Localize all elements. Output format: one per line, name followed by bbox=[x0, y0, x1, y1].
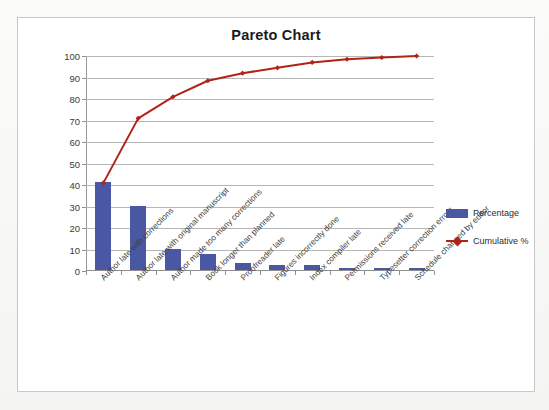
bar-0 bbox=[95, 182, 111, 270]
y-tick-mark-100 bbox=[82, 56, 86, 57]
cumulative-marker-3 bbox=[205, 78, 210, 83]
x-tick-mark-5 bbox=[260, 271, 261, 275]
y-tick-label-80: 80 bbox=[69, 94, 80, 105]
chart-legend: PercentageCumulative % bbox=[446, 203, 538, 259]
y-tick-mark-90 bbox=[82, 78, 86, 79]
x-tick-mark-10 bbox=[434, 271, 435, 275]
y-tick-label-70: 70 bbox=[69, 115, 80, 126]
cumulative-marker-4 bbox=[240, 71, 245, 76]
legend-bar-swatch-icon bbox=[446, 209, 468, 218]
legend-label-0: Percentage bbox=[473, 208, 519, 218]
gridline-50 bbox=[86, 164, 434, 165]
y-tick-label-40: 40 bbox=[69, 180, 80, 191]
x-tick-mark-0 bbox=[86, 271, 87, 275]
y-tick-mark-50 bbox=[82, 164, 86, 165]
y-tick-label-100: 100 bbox=[64, 51, 80, 62]
y-tick-label-20: 20 bbox=[69, 223, 80, 234]
y-tick-mark-20 bbox=[82, 228, 86, 229]
legend-label-1: Cumulative % bbox=[473, 236, 529, 246]
x-tick-mark-6 bbox=[295, 271, 296, 275]
cumulative-marker-5 bbox=[275, 65, 280, 70]
gridline-40 bbox=[86, 185, 434, 186]
plot-wrapper: 0102030405060708090100 Author late with … bbox=[18, 18, 534, 391]
y-tick-label-90: 90 bbox=[69, 72, 80, 83]
x-tick-mark-3 bbox=[190, 271, 191, 275]
chart-frame[interactable]: Pareto Chart 0102030405060708090100 Auth… bbox=[17, 17, 535, 392]
gridline-90 bbox=[86, 78, 434, 79]
x-tick-mark-4 bbox=[225, 271, 226, 275]
legend-item-1[interactable]: Cumulative % bbox=[446, 231, 538, 251]
y-tick-label-30: 30 bbox=[69, 201, 80, 212]
cumulative-marker-7 bbox=[344, 57, 349, 62]
legend-item-0[interactable]: Percentage bbox=[446, 203, 538, 223]
y-tick-mark-40 bbox=[82, 185, 86, 186]
x-tick-mark-7 bbox=[330, 271, 331, 275]
gridline-100 bbox=[86, 56, 434, 57]
x-tick-mark-1 bbox=[121, 271, 122, 275]
x-tick-mark-8 bbox=[364, 271, 365, 275]
y-tick-label-0: 0 bbox=[75, 266, 80, 277]
legend-line-marker-icon bbox=[446, 235, 468, 247]
y-tick-mark-80 bbox=[82, 99, 86, 100]
y-tick-label-50: 50 bbox=[69, 158, 80, 169]
y-tick-label-60: 60 bbox=[69, 137, 80, 148]
cumulative-marker-6 bbox=[310, 60, 315, 65]
x-tick-mark-2 bbox=[156, 271, 157, 275]
gridline-70 bbox=[86, 121, 434, 122]
y-tick-mark-60 bbox=[82, 142, 86, 143]
x-tick-mark-9 bbox=[399, 271, 400, 275]
page-root: Pareto Chart 0102030405060708090100 Auth… bbox=[0, 0, 549, 410]
gridline-80 bbox=[86, 99, 434, 100]
y-tick-mark-70 bbox=[82, 121, 86, 122]
x-axis-category-labels: Author late with correctionsAuthor late … bbox=[86, 276, 434, 386]
gridline-60 bbox=[86, 142, 434, 143]
y-tick-label-10: 10 bbox=[69, 244, 80, 255]
y-tick-mark-10 bbox=[82, 250, 86, 251]
y-tick-mark-30 bbox=[82, 207, 86, 208]
